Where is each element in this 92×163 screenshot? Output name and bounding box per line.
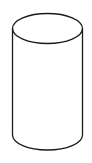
cylinder-figure xyxy=(0,0,92,163)
cylinder-bottom-arc xyxy=(13,135,83,150)
cylinder-top-ellipse xyxy=(13,14,83,44)
cylinder-drawing xyxy=(0,0,92,163)
